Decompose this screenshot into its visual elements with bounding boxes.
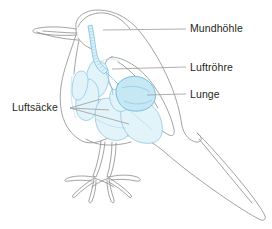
leg-left-outline [93,141,105,177]
bird-anatomy-diagram: Mundhöhle Luftröhre Lunge Luftsäcke [0,0,272,229]
neck-front-outline [74,40,79,74]
label-mundhoehle: Mundhöhle [190,22,243,34]
label-luftsaecke: Luftsäcke [12,101,58,113]
diagram-canvas [0,0,272,229]
tail-edge-line [199,139,252,203]
lung-shape [116,76,156,111]
lung-group [116,76,156,111]
beak-upper-outline [33,27,77,35]
belly-outline [86,139,131,145]
leader-line-luftroehre [112,67,186,69]
beak-gape-line [43,31,77,33]
head-crown-outline [78,13,130,29]
detail-line-3 [100,59,120,62]
label-luftroehre: Luftröhre [190,61,233,73]
label-lunge: Lunge [190,88,220,100]
foot-right-toes [92,175,140,203]
leg-right-outline [107,142,116,177]
leader-line-mundhoehle [103,29,186,30]
